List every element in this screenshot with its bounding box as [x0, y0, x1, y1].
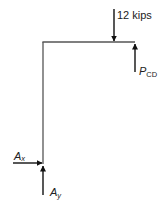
a-y-label-main: A	[49, 186, 57, 198]
free-body-diagram: 12 kips PCD Ax Ay	[0, 0, 164, 214]
a-y-label: Ay	[49, 186, 62, 200]
a-x-label-main: A	[13, 150, 21, 162]
p-cd-arrow: PCD	[135, 44, 158, 79]
applied-load-arrow: 12 kips	[114, 9, 152, 41]
p-cd-label-sub: CD	[146, 70, 157, 79]
a-y-arrow: Ay	[43, 166, 62, 200]
a-x-label-sub: x	[20, 154, 25, 163]
applied-load-label: 12 kips	[117, 9, 152, 21]
a-x-label: Ax	[13, 150, 25, 163]
a-x-arrow: Ax	[13, 150, 42, 163]
a-y-label-sub: y	[56, 191, 62, 200]
p-cd-label: PCD	[139, 65, 158, 79]
